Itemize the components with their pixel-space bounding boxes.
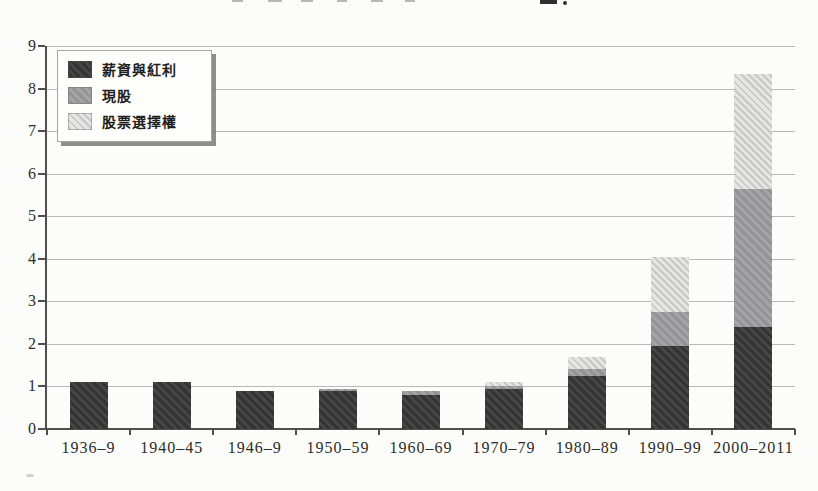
- x-tick: [129, 429, 131, 435]
- legend-swatch-salary-bonus: [68, 61, 92, 78]
- x-tick: [628, 429, 630, 435]
- legend: 薪資與紅利 現股 股票選擇權: [57, 50, 212, 142]
- x-axis-label-2000–2011: 2000–2011: [712, 438, 795, 458]
- title-fragment-mark: [268, 0, 282, 2]
- title-fragment-dot: [563, 1, 567, 5]
- bar-segment-salary-2000–2011: [734, 327, 772, 429]
- gridline-y6: [47, 174, 795, 175]
- legend-item-stock: 現股: [58, 82, 211, 108]
- bar-segment-stock-1970–79: [485, 386, 523, 388]
- x-tick: [378, 429, 380, 435]
- x-axis-label-1950–59: 1950–59: [296, 438, 379, 458]
- y-tick-4: [38, 258, 45, 260]
- bar-segment-options-1980–89: [568, 357, 606, 370]
- bar-segment-stock-1960–69: [402, 391, 440, 395]
- y-tick-9: [38, 45, 45, 47]
- y-tick-0: [38, 428, 45, 430]
- bar-segment-stock-1990–99: [651, 312, 689, 346]
- x-tick: [711, 429, 713, 435]
- y-axis-label-8: 8: [8, 80, 36, 98]
- x-axis-label-1960–69: 1960–69: [379, 438, 462, 458]
- y-axis-label-4: 4: [8, 250, 36, 268]
- bar-segment-salary-1960–69: [402, 395, 440, 429]
- x-axis-label-1940–45: 1940–45: [130, 438, 213, 458]
- legend-label-stock: 現股: [102, 85, 132, 105]
- y-axis-label-0: 0: [8, 420, 36, 438]
- title-fragment-dash: [540, 0, 557, 4]
- y-axis-label-1: 1: [8, 377, 36, 395]
- y-axis-line: [45, 46, 47, 430]
- y-tick-2: [38, 343, 45, 345]
- bar-segment-salary-1950–59: [319, 391, 357, 429]
- legend-swatch-stock: [68, 87, 92, 104]
- bar-segment-options-1970–79: [485, 382, 523, 386]
- x-axis-label-1946–9: 1946–9: [213, 438, 296, 458]
- title-fragment-mark: [371, 0, 383, 2]
- y-tick-5: [38, 215, 45, 217]
- y-tick-3: [38, 300, 45, 302]
- y-tick-8: [38, 88, 45, 90]
- x-axis-label-1936–9: 1936–9: [47, 438, 130, 458]
- bar-segment-salary-1980–89: [568, 376, 606, 429]
- bar-segment-options-1990–99: [651, 257, 689, 312]
- gridline-y9: [47, 46, 795, 47]
- legend-label-salary-bonus: 薪資與紅利: [102, 59, 177, 79]
- legend-item-stock-options: 股票選擇權: [58, 108, 211, 134]
- y-tick-6: [38, 173, 45, 175]
- x-tick: [462, 429, 464, 435]
- legend-label-stock-options: 股票選擇權: [102, 111, 177, 131]
- bar-segment-salary-1990–99: [651, 346, 689, 429]
- x-tick: [794, 429, 796, 435]
- scan-artifact: [26, 474, 34, 477]
- scanned-book-figure: 01234567891936–91940–451946–91950–591960…: [0, 0, 818, 491]
- x-axis-label-1980–89: 1980–89: [546, 438, 629, 458]
- y-tick-7: [38, 130, 45, 132]
- legend-item-salary-bonus: 薪資與紅利: [58, 56, 211, 82]
- y-axis-label-5: 5: [8, 207, 36, 225]
- x-tick: [212, 429, 214, 435]
- y-axis-label-9: 9: [8, 37, 36, 55]
- x-tick: [545, 429, 547, 435]
- x-axis-label-1970–79: 1970–79: [463, 438, 546, 458]
- bar-segment-salary-1940–45: [153, 382, 191, 429]
- bar-segment-salary-1970–79: [485, 389, 523, 429]
- y-axis-label-2: 2: [8, 335, 36, 353]
- y-axis-label-6: 6: [8, 165, 36, 183]
- y-tick-1: [38, 385, 45, 387]
- x-axis-label-1990–99: 1990–99: [629, 438, 712, 458]
- title-fragment-mark: [405, 0, 415, 2]
- y-axis-label-7: 7: [8, 122, 36, 140]
- x-tick: [46, 429, 48, 435]
- bar-segment-stock-1950–59: [319, 389, 357, 391]
- y-axis-label-3: 3: [8, 292, 36, 310]
- bar-segment-options-2000–2011: [734, 74, 772, 189]
- bar-segment-stock-1980–89: [568, 369, 606, 375]
- title-fragment-mark: [232, 0, 243, 2]
- title-fragment-mark: [301, 0, 313, 2]
- title-fragment-mark: [337, 0, 347, 2]
- x-tick: [295, 429, 297, 435]
- bar-segment-salary-1946–9: [236, 391, 274, 429]
- gridline-y5: [47, 216, 795, 217]
- bar-segment-salary-1936–9: [70, 382, 108, 429]
- legend-swatch-stock-options: [68, 113, 92, 130]
- bar-segment-stock-2000–2011: [734, 189, 772, 327]
